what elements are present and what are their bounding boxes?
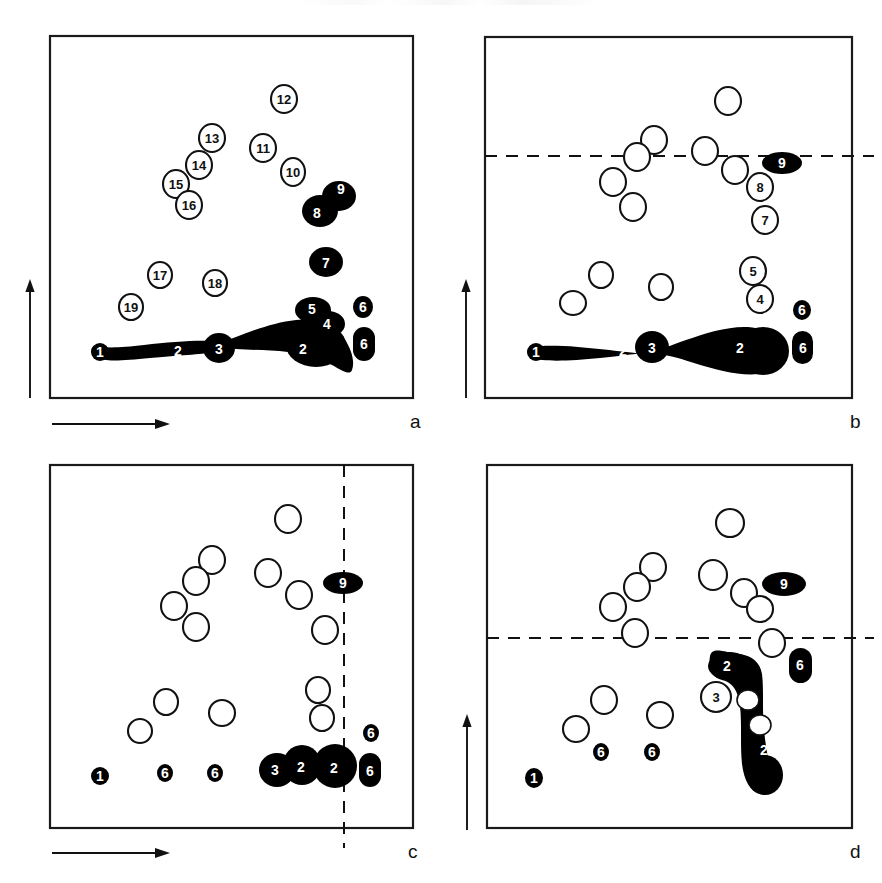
label-filled-b9: 9 [778, 155, 786, 171]
label-open-b4: 4 [756, 292, 764, 307]
label-filled-3: 3 [215, 341, 223, 357]
open-blob-b4 [624, 143, 650, 171]
panel-d-y-axis-arrow [462, 714, 471, 830]
panel-a-x-axis-arrow [52, 419, 170, 429]
label-filled-8: 8 [313, 205, 321, 221]
label-open-11: 11 [256, 141, 270, 156]
panel-d-hole-1 [737, 690, 759, 710]
label-open-15: 15 [169, 177, 183, 192]
panel-label-c: c [408, 842, 418, 861]
open-blob-c9 [154, 689, 178, 715]
label-open-17: 17 [153, 268, 167, 283]
label-filled-c2a: 2 [297, 759, 305, 775]
label-open-b5: 5 [749, 264, 756, 279]
open-blob-c13 [310, 705, 334, 731]
label-filled-d6r: 6 [796, 657, 804, 673]
open-blob-c8 [312, 616, 338, 644]
panel-a-y-axis-arrow [25, 279, 34, 398]
figure-canvas: 12 13 11 14 10 15 16 17 18 19 9 8 7 5 4 … [0, 0, 882, 883]
open-blob-d9 [759, 629, 785, 657]
label-filled-4: 4 [323, 316, 331, 332]
open-blob-b1 [715, 87, 741, 115]
label-filled-c6d: 6 [211, 765, 219, 781]
open-blob-d6 [600, 593, 626, 621]
open-blob-c4 [183, 567, 209, 595]
panel-b-y-axis-arrow [461, 279, 470, 398]
label-filled-b2b: 2 [736, 340, 744, 356]
label-open-d3: 3 [712, 690, 719, 705]
label-filled-b3: 3 [648, 340, 656, 356]
label-filled-b1: 1 [532, 344, 540, 360]
label-filled-b6b: 6 [799, 340, 807, 356]
label-filled-5: 5 [308, 301, 316, 317]
label-filled-d6a: 6 [597, 744, 605, 760]
open-blob-b8 [589, 262, 613, 288]
label-filled-2a: 2 [174, 343, 182, 359]
open-blob-c12 [306, 677, 330, 703]
label-filled-c2b: 2 [330, 760, 338, 776]
open-blob-b7 [620, 193, 646, 221]
open-blob-c3 [255, 559, 281, 587]
label-open-18: 18 [208, 276, 222, 291]
panel-d-open-labels: 3 [712, 690, 719, 705]
label-open-13: 13 [205, 131, 219, 146]
label-filled-c6u: 6 [367, 725, 375, 741]
open-blob-b6 [600, 168, 626, 196]
label-filled-6b: 6 [360, 336, 368, 352]
open-blob-c11 [128, 719, 152, 743]
label-filled-6a: 6 [359, 299, 367, 315]
label-filled-c9: 9 [339, 575, 347, 591]
open-blob-c5 [286, 581, 312, 609]
label-filled-d6b: 6 [648, 744, 656, 760]
panel-a: 12 13 11 14 10 15 16 17 18 19 9 8 7 5 4 … [25, 36, 413, 429]
panel-c-x-axis-arrow [52, 848, 170, 858]
cropped-caption-smudge [300, 0, 600, 5]
panel-b: 8 7 5 4 9 6 6 1 2 3 2 [461, 37, 874, 398]
panel-label-b: b [850, 412, 861, 431]
open-blob-b3 [692, 137, 718, 165]
open-blob-b9 [649, 274, 673, 300]
panel-c-open-blobs [128, 505, 338, 743]
label-filled-c6c: 6 [161, 765, 169, 781]
label-filled-7: 7 [322, 255, 330, 271]
label-filled-2b: 2 [299, 341, 307, 357]
label-open-b8: 8 [756, 180, 763, 195]
open-blob-d3 [699, 560, 727, 590]
label-filled-b6a: 6 [798, 302, 806, 318]
panel-b-tail-mass [527, 327, 789, 375]
label-open-16: 16 [182, 198, 196, 213]
panel-label-d: d [850, 842, 861, 861]
open-blob-d4 [624, 573, 650, 601]
label-filled-c1: 1 [96, 768, 104, 784]
open-blob-c1 [275, 505, 301, 533]
open-blob-c7 [183, 613, 209, 641]
label-filled-c3: 3 [271, 762, 279, 778]
label-filled-d2l: 2 [760, 742, 768, 758]
open-blob-c10 [209, 700, 235, 726]
open-blob-b5 [722, 156, 748, 184]
panel-a-blob-89 [302, 181, 356, 227]
panel-d: 3 9 2 6 2 1 6 6 [462, 465, 874, 830]
panel-label-a: a [410, 412, 421, 431]
figure-root: 12 13 11 14 10 15 16 17 18 19 9 8 7 5 4 … [0, 0, 882, 883]
panel-b-open-blobs [560, 87, 778, 315]
label-filled-c6l: 6 [366, 763, 374, 779]
open-blob-d10 [591, 686, 617, 714]
label-filled-d9: 9 [780, 576, 788, 592]
panel-c: 9 6 3 2 2 6 1 6 6 [50, 465, 413, 858]
open-blob-d8 [622, 619, 648, 647]
panel-d-hole-2 [749, 715, 771, 735]
open-blob-d12 [563, 716, 589, 742]
open-blob-c6 [161, 592, 187, 620]
label-open-14: 14 [192, 158, 207, 173]
label-open-19: 19 [124, 300, 138, 315]
label-open-12: 12 [277, 92, 291, 107]
label-filled-d1: 1 [530, 770, 538, 786]
label-filled-1: 1 [96, 344, 104, 360]
label-filled-d2u: 2 [723, 658, 731, 674]
open-blob-d11 [647, 702, 673, 728]
open-blob-d1 [716, 509, 744, 537]
open-blob-b10 [560, 291, 586, 315]
panel-d-hook-mass [708, 650, 783, 795]
label-filled-9: 9 [337, 181, 345, 197]
